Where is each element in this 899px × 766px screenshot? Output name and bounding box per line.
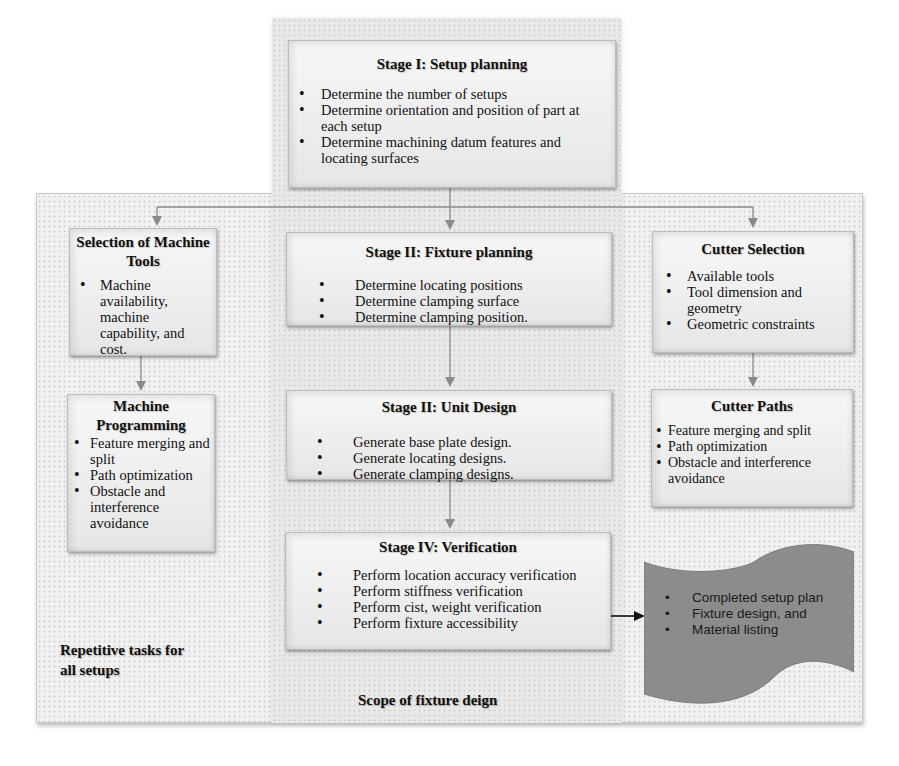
machine-programming-item: Path optimization <box>90 467 214 483</box>
stage1-item: Determine the number of setups <box>321 86 609 102</box>
stage2-item: Determine clamping position. <box>355 309 611 325</box>
scope-label: Scope of fixture deign <box>358 690 497 710</box>
stage1-item: Determine machining datum features and l… <box>321 134 609 166</box>
stage4-item: Perform fixture accessibility <box>353 615 610 631</box>
stage4-item: Perform stiffness verification <box>353 583 610 599</box>
repetitive-tasks-label: Repetitive tasks for all setups <box>60 640 200 680</box>
machine-tools-title: Selection of Machine Tools <box>70 229 216 271</box>
cutter-selection-box: Cutter Selection Available tools Tool di… <box>652 231 854 353</box>
cutter-selection-item: Tool dimension and geometry <box>687 284 853 316</box>
output-item: Fixture design, and <box>692 606 854 622</box>
cutter-paths-item: Obstacle and interference avoidance <box>668 455 852 487</box>
cutter-paths-box: Cutter Paths Feature merging and split P… <box>651 389 853 507</box>
stage2-title: Stage II: Fixture planning <box>287 233 611 262</box>
unit-design-title: Stage II: Unit Design <box>287 391 611 417</box>
unit-design-item: Generate base plate design. <box>353 434 611 450</box>
stage1-setup-planning-box: Stage I: Setup planning Determine the nu… <box>288 40 616 188</box>
machine-tools-box: Selection of Machine Tools Machine avail… <box>69 228 217 356</box>
machine-programming-item: Obstacle and interference avoidance <box>90 483 214 531</box>
stage-unit-design-box: Stage II: Unit Design Generate base plat… <box>286 390 612 480</box>
cutter-selection-item: Geometric constraints <box>687 316 853 332</box>
cutter-selection-title: Cutter Selection <box>653 232 853 259</box>
stage4-item: Perform cist, weight verification <box>353 599 610 615</box>
output-item: Material listing <box>692 622 854 638</box>
stage4-verification-box: Stage IV: Verification Perform location … <box>285 532 611 650</box>
stage2-item: Determine clamping surface <box>355 293 611 309</box>
cutter-paths-item: Feature merging and split <box>668 423 852 439</box>
stage1-title: Stage I: Setup planning <box>289 41 615 74</box>
machine-tools-item: Machine availability, machine capability… <box>100 277 212 357</box>
cutter-paths-item: Path optimization <box>668 439 852 455</box>
stage1-item: Determine orientation and position of pa… <box>321 102 609 134</box>
machine-programming-title: Machine Programming <box>68 395 214 435</box>
stage2-item: Determine locating positions <box>355 277 611 293</box>
output-item: Completed setup plan <box>692 590 854 606</box>
unit-design-item: Generate locating designs. <box>353 450 611 466</box>
machine-programming-box: Machine Programming Feature merging and … <box>67 394 215 552</box>
cutter-selection-item: Available tools <box>687 268 853 284</box>
output-document-text: Completed setup plan Fixture design, and… <box>664 590 854 638</box>
machine-programming-item: Feature merging and split <box>90 435 214 467</box>
stage4-title: Stage IV: Verification <box>286 533 610 557</box>
cutter-paths-title: Cutter Paths <box>652 390 852 416</box>
unit-design-item: Generate clamping designs. <box>353 466 611 482</box>
stage2-fixture-planning-box: Stage II: Fixture planning Determine loc… <box>286 232 612 326</box>
stage4-item: Perform location accuracy verification <box>353 567 610 583</box>
